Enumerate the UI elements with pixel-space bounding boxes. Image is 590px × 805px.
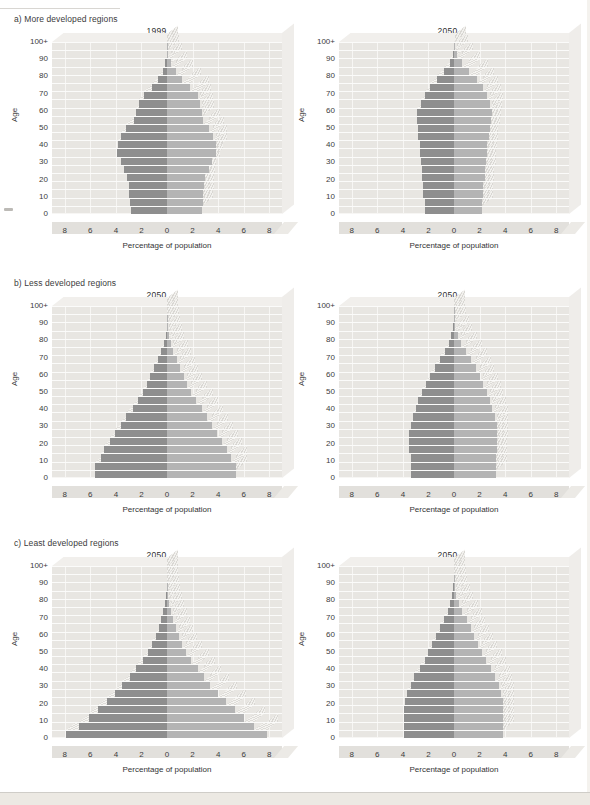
bar-separator [339, 648, 569, 649]
y-tick-90: 90 [39, 319, 48, 327]
bar-separator [52, 198, 282, 199]
bar-male-55-59 [147, 380, 167, 388]
bar-row [339, 607, 569, 615]
bar-male-15-19 [104, 445, 167, 453]
bar-row [52, 372, 282, 380]
bar-female-10-14 [454, 453, 496, 461]
bar-row [339, 108, 569, 116]
y-axis-labels: 100+9080706050403020100 [295, 306, 335, 478]
y-tick-100plus: 100+ [317, 562, 335, 570]
bar-female-15-19 [167, 445, 227, 453]
bar-separator [52, 396, 282, 397]
bar-male-35-39 [126, 412, 167, 420]
x-tick-8: 8 [554, 490, 558, 499]
bar-separator [339, 132, 569, 133]
bar-male-25-29 [409, 429, 454, 437]
bar-separator [339, 582, 569, 583]
y-tick-0: 0 [44, 210, 48, 218]
y-tick-80: 80 [39, 596, 48, 604]
y-axis-title: Age [297, 632, 306, 646]
y-tick-0: 0 [44, 734, 48, 742]
bar-female-35-39 [454, 412, 495, 420]
bar-separator [339, 730, 569, 731]
bar-female-10-14 [454, 713, 503, 721]
bar-female-45-49 [167, 396, 196, 404]
bar-female-55-59 [167, 380, 187, 388]
bar-row [339, 132, 569, 140]
bar-separator [339, 615, 569, 616]
bars-container [52, 306, 282, 478]
bar-male-25-29 [407, 689, 454, 697]
bar-row [52, 99, 282, 107]
bar-row [52, 83, 282, 91]
bar-separator [52, 664, 282, 665]
y-tick-50: 50 [39, 648, 48, 656]
bar-row [339, 730, 569, 738]
bar-row [339, 615, 569, 623]
y-tick-10: 10 [39, 457, 48, 465]
y-tick-30: 30 [39, 158, 48, 166]
x-tick-3: 2 [139, 490, 143, 499]
x-tick-2: 4 [401, 750, 405, 759]
bar-female-90-94 [454, 582, 455, 590]
bar-separator [339, 453, 569, 454]
bar-male-55-59 [432, 640, 454, 648]
bar-row [52, 404, 282, 412]
x-axis-title: Percentage of population [52, 765, 282, 774]
bar-row [339, 713, 569, 721]
y-tick-10: 10 [326, 457, 335, 465]
section-title-b: b) Less developed regions [14, 278, 116, 288]
bar-female-40-44 [454, 140, 487, 148]
bar-separator [52, 656, 282, 657]
bar-female-5-9 [167, 722, 254, 730]
bar-row [52, 173, 282, 181]
bar-separator [52, 108, 282, 109]
y-tick-0: 0 [44, 474, 48, 482]
bar-separator [339, 656, 569, 657]
bar-male-15-19 [423, 181, 454, 189]
bars-container [339, 566, 569, 738]
bar-female-60-64 [167, 108, 202, 116]
bar-separator [52, 591, 282, 592]
bar-separator [52, 404, 282, 405]
bar-female-20-24 [454, 697, 503, 705]
bar-female-85-89 [454, 67, 469, 75]
bar-row [339, 453, 569, 461]
bar-female-90-94 [454, 58, 462, 66]
bar-female-25-29 [167, 689, 218, 697]
y-tick-50: 50 [326, 124, 335, 132]
bar-row [339, 689, 569, 697]
bar-female-55-59 [454, 640, 478, 648]
bar-male-30-34 [421, 157, 454, 165]
bar-row [339, 640, 569, 648]
bar-male-45-49 [143, 656, 167, 664]
bar-row [339, 75, 569, 83]
bar-female-50-54 [167, 648, 186, 656]
bar-separator [339, 189, 569, 190]
bar-row [52, 306, 282, 314]
bar-separator [339, 157, 569, 158]
bar-separator [52, 67, 282, 68]
chart-row-c: 2050MalesFemales100+9080706050403020100A… [0, 550, 590, 796]
bars-container [52, 566, 282, 738]
bar-female-15-19 [454, 445, 497, 453]
bar-separator [339, 607, 569, 608]
bar-female-70-74 [167, 91, 198, 99]
bar-male-50-54 [143, 388, 167, 396]
bar-separator [339, 429, 569, 430]
bar-female-0-4 [167, 730, 267, 738]
bar-row [339, 116, 569, 124]
bar-row [52, 198, 282, 206]
y-tick-60: 60 [326, 107, 335, 115]
bar-female-60-64 [454, 632, 474, 640]
bar-separator [339, 566, 569, 567]
y-axis-labels: 100+9080706050403020100 [8, 566, 48, 738]
bar-row [52, 42, 282, 50]
bar-separator [52, 429, 282, 430]
bar-separator [52, 132, 282, 133]
bar-separator [339, 198, 569, 199]
bar-row [52, 421, 282, 429]
bar-female-0-4 [167, 470, 236, 478]
bar-male-0-4 [66, 730, 167, 738]
bar-male-60-64 [436, 632, 454, 640]
